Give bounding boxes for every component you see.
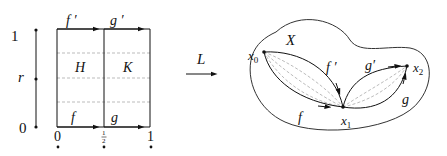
label-g-bottom: g <box>111 110 118 125</box>
label-x1: x1 <box>340 113 351 130</box>
tick-0: 0 <box>54 129 61 144</box>
axis-r-label: r <box>18 69 24 85</box>
label-path-f-prime: f ′ <box>326 60 337 75</box>
space-X: X x0 x1 x2 f ′ f g′ <box>247 20 429 131</box>
tick-half-numerator: 1 <box>102 129 106 137</box>
point-x0 <box>262 50 266 54</box>
tick-1: 1 <box>147 129 154 144</box>
label-H: H <box>74 60 86 75</box>
space-outline <box>250 20 429 131</box>
parameter-axis: 1 r 0 <box>11 28 38 136</box>
axis-bottom-label: 0 <box>19 120 27 136</box>
tick-half-denominator: 2 <box>102 137 106 145</box>
label-f-prime-top: f ′ <box>66 13 77 28</box>
label-path-f: f <box>298 110 304 125</box>
label-x2: x2 <box>412 60 423 77</box>
label-f-bottom: f <box>71 110 77 125</box>
axis-mid-dot <box>34 77 37 80</box>
axis-top-label: 1 <box>11 28 19 44</box>
homotopy-diagram: 1 r 0 f ′ g ′ H K f g 0 1 2 1 <box>0 0 447 156</box>
point-x1 <box>341 105 345 109</box>
label-x0: x0 <box>247 48 259 65</box>
label-path-g: g <box>402 92 409 107</box>
label-K: K <box>122 60 133 75</box>
homotopy-square: f ′ g ′ H K f g 0 1 2 1 <box>54 13 154 148</box>
label-g-prime-top: g ′ <box>110 13 125 28</box>
label-path-g-prime: g′ <box>365 58 376 73</box>
map-L: L <box>186 51 214 74</box>
axis-top-dot <box>34 28 37 31</box>
space-label-X: X <box>285 32 296 48</box>
point-x2 <box>405 64 409 68</box>
axis-bottom-dot <box>34 125 37 128</box>
map-label-L: L <box>196 51 205 67</box>
